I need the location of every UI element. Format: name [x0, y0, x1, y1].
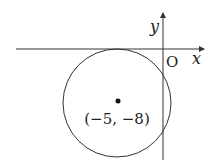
origin-label: O	[166, 53, 178, 71]
y-axis-label: y	[149, 17, 160, 36]
center-label: (−5, −8)	[84, 110, 149, 128]
center-point	[116, 99, 121, 104]
diagram-canvas: y O x (−5, −8)	[0, 0, 217, 166]
x-axis-label: x	[192, 49, 201, 68]
